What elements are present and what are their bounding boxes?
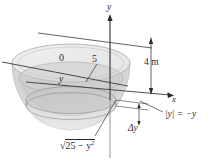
delta-arrow-up bbox=[137, 103, 140, 108]
y-axis-arrowhead bbox=[107, 14, 112, 21]
bowl-diagram bbox=[0, 0, 216, 163]
slab-radius-label: √25 − y2 bbox=[60, 139, 95, 151]
radical-exponent: 2 bbox=[91, 139, 94, 146]
radius-label: 5 bbox=[92, 54, 97, 64]
dimension-arrow-up bbox=[149, 37, 153, 44]
radical-body: 25 − y bbox=[66, 140, 92, 151]
lift-height-label: 4 m bbox=[144, 58, 159, 68]
depth-label: y bbox=[59, 75, 63, 85]
y-axis-label: y bbox=[107, 3, 111, 13]
dimension-arrow-down bbox=[149, 88, 153, 95]
slab-thickness-label: Δy bbox=[128, 124, 138, 134]
x-axis-label: x bbox=[172, 95, 176, 104]
origin-label: 0 bbox=[59, 53, 64, 63]
abs-depth-label: |y| = −y bbox=[165, 110, 196, 120]
